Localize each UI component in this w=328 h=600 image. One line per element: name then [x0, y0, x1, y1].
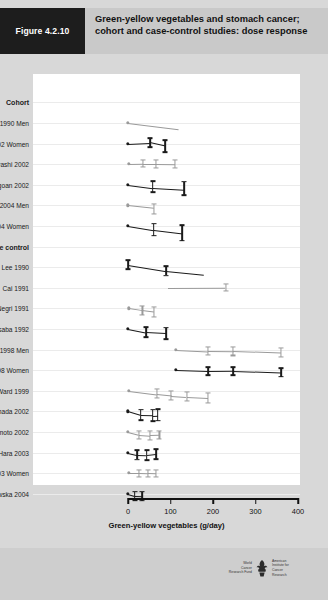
reference-point-marker — [127, 162, 130, 165]
confidence-interval-cap — [279, 357, 284, 358]
confidence-interval-cap — [205, 375, 210, 377]
figure-title: Green-yellow vegetables and stomach canc… — [85, 8, 328, 54]
confidence-interval-cap — [126, 268, 131, 270]
reference-point-marker — [127, 307, 130, 310]
figure-footer: World Cancer Research Fund American Inst… — [0, 548, 328, 600]
confidence-interval-cap — [164, 327, 169, 329]
trend-line-segment — [168, 287, 225, 288]
study-label: Ji 1998 Women — [0, 367, 29, 374]
confidence-interval-cap — [154, 398, 159, 399]
confidence-interval-cap — [150, 180, 155, 182]
confidence-interval-cap — [180, 224, 185, 226]
confidence-interval-cap — [154, 477, 159, 478]
confidence-interval-cap — [138, 420, 143, 422]
confidence-interval-cap — [164, 275, 169, 277]
confidence-interval-cap — [164, 339, 169, 341]
study-label: Nishimoto 2002 — [0, 428, 29, 435]
confidence-interval-cap — [154, 470, 159, 471]
confidence-interval-cap — [152, 316, 157, 317]
confidence-interval-cap — [169, 399, 174, 400]
study-label: Khan 2004 Men — [0, 202, 29, 209]
trend-line-segment — [146, 332, 166, 334]
study-label: Lissowska 2004 — [0, 490, 29, 497]
confidence-interval-cap — [182, 194, 187, 196]
group-heading-label: Case control — [0, 243, 29, 250]
confidence-interval-cap — [279, 367, 284, 369]
x-axis-tick — [170, 498, 172, 504]
gridline — [33, 205, 300, 206]
x-axis-tick — [212, 498, 214, 504]
confidence-interval-cap — [150, 192, 155, 194]
study-label: Hamada 2002 — [0, 408, 29, 415]
confidence-interval-cap — [155, 420, 160, 422]
study-label: Negri 1991 — [0, 305, 29, 312]
study-label: Ito 2003 Women — [0, 470, 29, 477]
confidence-interval-bar — [154, 204, 155, 215]
confidence-interval-cap — [137, 476, 142, 477]
confidence-interval-cap — [141, 160, 146, 161]
confidence-interval-cap — [137, 438, 142, 439]
confidence-interval-cap — [137, 430, 142, 431]
aicr-logo-text: American Institute for Cancer Research — [272, 559, 296, 577]
x-axis-tick-label: 300 — [249, 507, 261, 516]
trend-line-segment — [153, 188, 184, 191]
x-axis-tick-label: 100 — [164, 507, 176, 516]
trend-line-segment — [156, 164, 175, 165]
wcrf-aicr-emblem-icon — [254, 558, 270, 578]
gridline — [33, 102, 300, 103]
gridline — [33, 185, 300, 186]
study-label: Hara 2003 — [0, 449, 29, 456]
confidence-interval-cap — [144, 450, 149, 452]
figure-header: Figure 4.2.10 Green-yellow vegetables an… — [0, 8, 328, 54]
confidence-interval-cap — [154, 389, 159, 390]
trend-line-segment — [153, 230, 182, 234]
confidence-interval-cap — [140, 491, 145, 493]
trend-line-segment — [233, 371, 281, 373]
gridline — [33, 123, 300, 124]
confidence-interval-cap — [152, 214, 157, 215]
confidence-interval-cap — [148, 439, 153, 440]
confidence-interval-cap — [140, 306, 145, 307]
confidence-interval-cap — [148, 430, 153, 431]
figure-number: Figure 4.2.10 — [0, 8, 85, 54]
confidence-interval-cap — [182, 181, 187, 183]
x-axis-tick — [297, 498, 299, 504]
confidence-interval-cap — [157, 430, 162, 431]
confidence-interval-cap — [231, 355, 236, 356]
confidence-interval-cap — [141, 167, 146, 168]
confidence-interval-cap — [169, 391, 174, 392]
trend-line-segment — [208, 371, 234, 372]
confidence-interval-cap — [184, 401, 189, 402]
confidence-interval-bar — [183, 182, 185, 196]
wcrf-logo-text: World Cancer Research Fund — [228, 561, 252, 575]
confidence-interval-cap — [223, 284, 228, 285]
confidence-interval-cap — [279, 376, 284, 378]
confidence-interval-cap — [146, 469, 151, 470]
study-label: Kobayashi 2002 — [0, 161, 29, 168]
confidence-interval-cap — [163, 139, 168, 141]
confidence-interval-bar — [182, 225, 184, 240]
confidence-interval-cap — [205, 355, 210, 356]
confidence-interval-cap — [154, 449, 159, 451]
confidence-interval-cap — [152, 203, 157, 204]
confidence-interval-cap — [143, 326, 148, 328]
study-label: Hoshiyama and Sasaba 1992 — [0, 325, 29, 332]
confidence-interval-cap — [154, 167, 159, 168]
confidence-interval-cap — [135, 449, 140, 451]
trend-line-segment — [139, 435, 150, 437]
chart-panel: CohortChyou 1990 MenKasum 2002 WomenKoba… — [33, 74, 300, 485]
confidence-interval-cap — [279, 348, 284, 349]
gridline — [33, 350, 300, 351]
gridline — [33, 494, 300, 495]
confidence-interval-cap — [231, 347, 236, 348]
confidence-interval-cap — [172, 160, 177, 161]
x-axis: 0100200300400 Green-yellow vegetables (g… — [33, 498, 300, 544]
trend-line-segment — [128, 265, 166, 272]
x-axis-tick-label: 200 — [207, 507, 219, 516]
x-axis-title: Green-yellow vegetables (g/day) — [33, 521, 300, 530]
gridline — [33, 288, 300, 289]
reference-point-marker — [127, 471, 130, 474]
confidence-interval-cap — [140, 314, 145, 315]
confidence-interval-cap — [143, 336, 148, 338]
gridline — [33, 411, 300, 412]
